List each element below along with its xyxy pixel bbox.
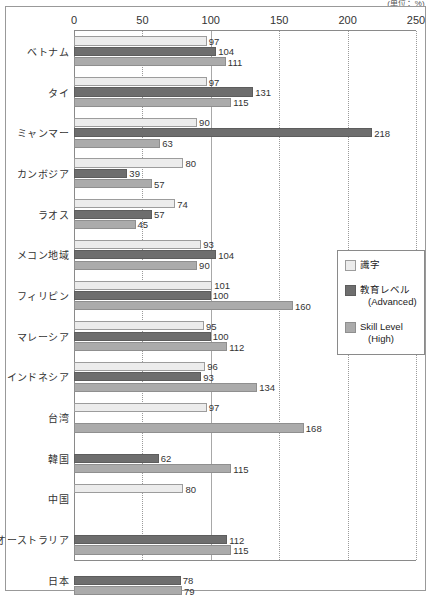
chart-row: オーストラリア112115	[6, 519, 427, 560]
bar-value-label: 57	[152, 209, 165, 220]
bar-slot	[74, 443, 416, 452]
chart-row: カンボジア803957	[6, 153, 427, 194]
bar-slot	[74, 494, 416, 503]
bar	[74, 454, 159, 463]
bar-slot: 63	[74, 139, 416, 148]
x-tick-label: 50	[136, 14, 148, 26]
bar	[74, 87, 253, 96]
bar-slot: 80	[74, 158, 416, 167]
bar-value-label: 97	[207, 35, 220, 46]
bar-value-label: 131	[253, 87, 271, 98]
bar	[74, 586, 182, 595]
bar-value-label: 93	[201, 239, 214, 250]
bar-slot: 134	[74, 383, 416, 392]
bar-value-label: 93	[201, 371, 214, 382]
bar-slot	[74, 525, 416, 534]
bar-slot: 78	[74, 576, 416, 585]
bar-group: 745745	[74, 194, 416, 235]
bar-slot: 218	[74, 128, 416, 137]
bar-slot: 39	[74, 169, 416, 178]
category-label: カンボジア	[6, 153, 69, 194]
chart-row: 日本7879	[6, 560, 427, 598]
bar-value-label: 160	[293, 300, 311, 311]
chart-row: 韓国62115	[6, 438, 427, 479]
chart-row: タイ97131115	[6, 72, 427, 113]
category-label: オーストラリア	[6, 519, 69, 560]
bar	[74, 261, 197, 270]
chart-row: ラオス745745	[6, 194, 427, 235]
bar-slot: 111	[74, 57, 416, 66]
bar-value-label: 111	[226, 56, 242, 67]
bar-value-label: 97	[207, 76, 220, 87]
bar-slot: 79	[74, 586, 416, 595]
category-label: ベトナム	[6, 31, 69, 72]
bar	[74, 403, 207, 412]
bar-value-label: 104	[216, 249, 234, 260]
bar-value-label: 62	[159, 453, 172, 464]
bar-slot: 97	[74, 77, 416, 86]
category-label: 中国	[6, 479, 69, 520]
chart-row: ベトナム97104111	[6, 31, 427, 72]
bar	[74, 372, 201, 381]
bar-group: 97168	[74, 397, 416, 438]
bar-value-label: 90	[197, 260, 210, 271]
bar-group: 97131115	[74, 72, 416, 113]
category-label: 台湾	[6, 397, 69, 438]
bar	[74, 98, 231, 107]
legend-swatch	[345, 285, 356, 296]
bar-value-label: 218	[372, 127, 390, 138]
x-tick-label: 250	[407, 14, 425, 26]
category-label: マレーシア	[6, 316, 69, 357]
bar-slot: 168	[74, 423, 416, 432]
category-label: ミャンマー	[6, 112, 69, 153]
category-label: フィリピン	[6, 275, 69, 316]
bar-group: 112115	[74, 519, 416, 560]
category-label: 日本	[6, 560, 69, 598]
bar-slot: 74	[74, 199, 416, 208]
x-tick-label: 100	[202, 14, 220, 26]
bar-value-label: 57	[152, 178, 165, 189]
category-label: タイ	[6, 72, 69, 113]
bar	[74, 332, 211, 341]
bar	[74, 423, 304, 432]
bar	[74, 250, 216, 259]
bar-group: 62115	[74, 438, 416, 479]
bar	[74, 240, 201, 249]
bar-slot: 90	[74, 118, 416, 127]
bar-slot: 115	[74, 98, 416, 107]
bar	[74, 383, 257, 392]
bar	[74, 545, 231, 554]
category-label: インドネシア	[6, 357, 69, 398]
bar-value-label: 115	[231, 97, 248, 108]
bar	[74, 535, 227, 544]
bar	[74, 484, 183, 493]
bar-value-label: 100	[211, 290, 229, 301]
bar-slot: 104	[74, 47, 416, 56]
chart-row: 中国80	[6, 479, 427, 520]
bar	[74, 77, 207, 86]
chart-area: 050100150200250 ベトナム97104111タイ97131115ミャ…	[6, 7, 427, 592]
category-label: メコン地域	[6, 234, 69, 275]
bar	[74, 118, 197, 127]
chart-row: ミャンマー9021863	[6, 112, 427, 153]
bar-slot: 57	[74, 179, 416, 188]
bar-slot: 57	[74, 210, 416, 219]
legend-label: 教育レベル(Advanced)	[360, 284, 417, 308]
bar	[74, 169, 127, 178]
bar-slot: 97	[74, 36, 416, 45]
legend-item: 教育レベル(Advanced)	[345, 284, 418, 308]
bar-slot: 115	[74, 545, 416, 554]
bar-value-label: 63	[160, 138, 173, 149]
bar	[74, 47, 216, 56]
bar-slot: 115	[74, 464, 416, 473]
chart-frame: 050100150200250 ベトナム97104111タイ97131115ミャ…	[5, 6, 426, 591]
bar-value-label: 97	[207, 402, 220, 413]
bar	[74, 576, 181, 585]
x-tick-label: 150	[270, 14, 288, 26]
bar-slot: 97	[74, 403, 416, 412]
bar-group: 97104111	[74, 31, 416, 72]
bar-slot: 62	[74, 454, 416, 463]
bar-value-label: 78	[181, 575, 194, 586]
bar-slot: 93	[74, 372, 416, 381]
x-tick-label: 200	[338, 14, 356, 26]
